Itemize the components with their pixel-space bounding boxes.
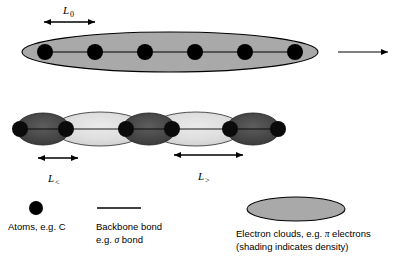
atom xyxy=(118,121,134,137)
atom xyxy=(222,121,238,137)
legend-bond-label-line2: e.g. σ bond xyxy=(96,234,143,245)
legend-clouds-post: electrons xyxy=(329,228,370,239)
uniform-chain-group xyxy=(22,32,318,72)
alternating-chain-group xyxy=(12,112,286,146)
legend-clouds-label-line1: Electron clouds, e.g. π electrons xyxy=(236,228,371,239)
top-length-label: L xyxy=(62,4,69,16)
short-bond-subscript: < xyxy=(55,178,60,187)
legend: Atoms, e.g. C Backbone bond e.g. σ bond … xyxy=(8,197,371,252)
atom xyxy=(287,44,303,60)
legend-cloud-icon xyxy=(247,197,345,221)
polymer-diagram-svg: L 0 xyxy=(0,0,399,262)
top-length-subscript: 0 xyxy=(70,10,74,19)
atom xyxy=(187,44,203,60)
short-bond-label: L xyxy=(47,172,54,184)
legend-clouds-pre: Electron clouds, e.g. xyxy=(236,228,325,239)
long-bond-label: L xyxy=(197,170,204,182)
long-bond-subscript: > xyxy=(205,176,210,185)
atom xyxy=(58,121,74,137)
legend-atom-icon xyxy=(29,201,43,215)
long-bond-measure: L > xyxy=(174,155,243,185)
legend-bond-post: bond xyxy=(119,234,143,245)
atom xyxy=(87,44,103,60)
atom xyxy=(137,44,153,60)
atom xyxy=(164,121,180,137)
legend-atoms-label: Atoms, e.g. C xyxy=(8,221,66,232)
atom xyxy=(12,121,28,137)
atom xyxy=(270,121,286,137)
short-bond-measure: L < xyxy=(38,158,78,187)
legend-bond-pre: e.g. xyxy=(96,234,115,245)
diagram-canvas: L 0 xyxy=(0,0,399,262)
atom xyxy=(37,44,53,60)
legend-clouds-label-line2: (shading indicates density) xyxy=(236,241,348,252)
top-length-measure: L 0 xyxy=(44,4,95,22)
atom xyxy=(237,44,253,60)
legend-bond-label-line1: Backbone bond xyxy=(96,221,162,232)
